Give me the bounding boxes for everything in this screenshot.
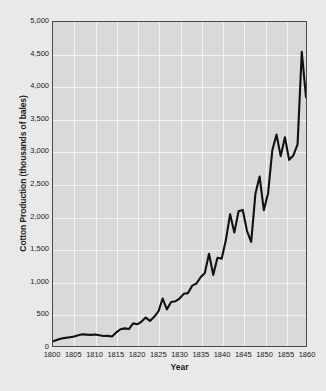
- y-axis-tick-label: 5,000: [18, 17, 49, 25]
- y-axis-tick-label: 1,000: [18, 278, 49, 286]
- cotton-production-chart-figure: Cotton Production (thousands of bales) 0…: [0, 0, 326, 391]
- y-axis-tick-label: 2,000: [18, 213, 49, 221]
- x-axis-title: Year: [52, 362, 307, 373]
- y-axis-tick-label: 4,000: [18, 82, 49, 90]
- y-axis-tick-label: 3,500: [18, 115, 49, 123]
- y-axis-tick-label: 4,500: [18, 50, 49, 58]
- x-axis-tick-label: 1860: [292, 350, 322, 360]
- plot-area: [52, 21, 307, 347]
- x-axis-tick-labels: 1800180518101815182018251830183518401845…: [52, 350, 307, 361]
- cotton-production-line-series: [53, 22, 306, 346]
- y-axis-tick-label: 3,000: [18, 147, 49, 155]
- y-axis-tick-labels: 05001,0001,5002,0002,5003,0003,5004,0004…: [18, 21, 49, 347]
- y-axis-tick-label: 2,500: [18, 180, 49, 188]
- y-axis-tick-label: 500: [18, 310, 49, 318]
- plot-inner: [53, 22, 306, 346]
- y-axis-tick-label: 1,500: [18, 245, 49, 253]
